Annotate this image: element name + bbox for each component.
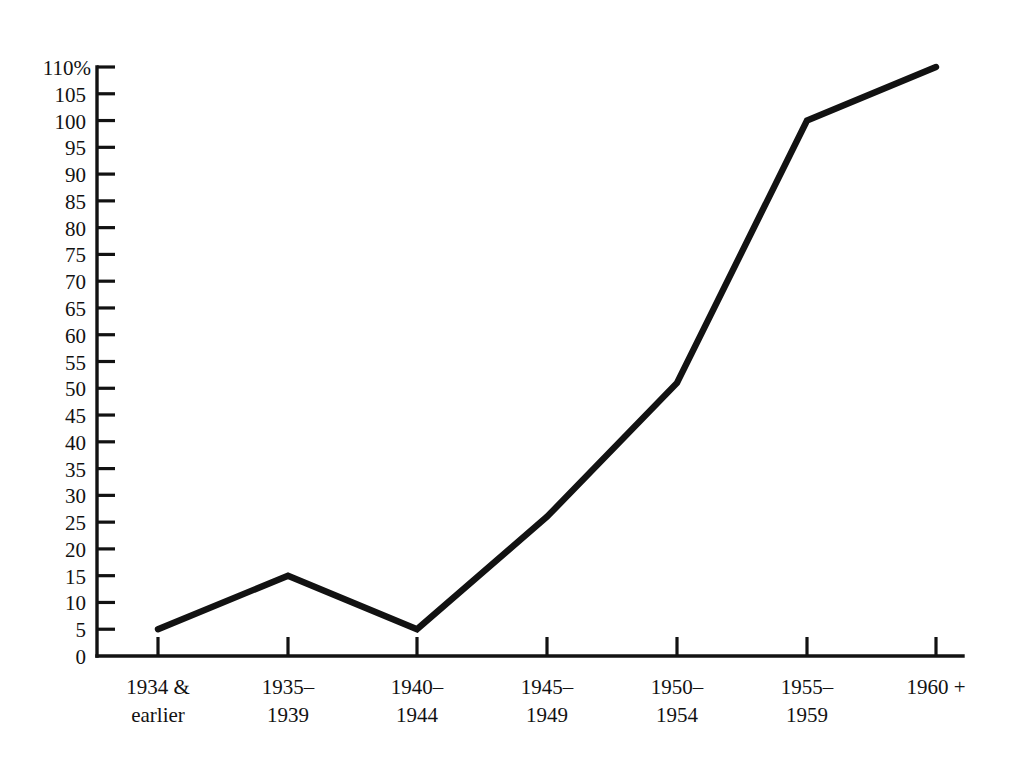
y-tick-label: 70 [65, 270, 86, 294]
x-tick-label: 1950–1954 [651, 675, 704, 727]
y-tick-label: 45 [65, 404, 86, 428]
chart-container: 0510152025303540455055606570758085909510… [0, 0, 1009, 757]
y-tick-label: 35 [65, 458, 86, 482]
y-axis: 0510152025303540455055606570758085909510… [43, 56, 115, 669]
y-tick-label: 60 [65, 324, 86, 348]
y-tick-label: 25 [65, 511, 86, 535]
data-line-series-0 [158, 67, 936, 629]
x-tick-label: 1935–1939 [262, 675, 315, 727]
y-tick-label: 90 [65, 163, 86, 187]
y-tick-label: 105 [55, 83, 87, 107]
x-tick-label: 1955–1959 [781, 675, 834, 727]
y-tick-label: 65 [65, 297, 86, 321]
y-axis-unit-label: 110% [43, 56, 91, 80]
y-tick-label: 15 [65, 565, 86, 589]
y-tick-label: 85 [65, 190, 86, 214]
x-axis [97, 637, 963, 656]
line-chart: 0510152025303540455055606570758085909510… [0, 0, 1009, 757]
y-tick-label: 5 [76, 618, 87, 642]
y-tick-label: 80 [65, 217, 86, 241]
y-tick-label: 50 [65, 377, 86, 401]
y-tick-label: 30 [65, 484, 86, 508]
data-series-line [158, 67, 936, 629]
y-tick-label: 95 [65, 136, 86, 160]
y-tick-label: 55 [65, 351, 86, 375]
x-tick-label: 1940–1944 [391, 675, 444, 727]
y-tick-label: 10 [65, 591, 86, 615]
x-axis-tick-labels: 1934 &earlier1935–19391940–19441945–1949… [126, 675, 965, 727]
x-tick-label: 1960 + [906, 675, 965, 699]
y-tick-label: 75 [65, 243, 86, 267]
y-tick-label: 100 [55, 110, 87, 134]
x-tick-label: 1945–1949 [521, 675, 574, 727]
y-tick-label: 40 [65, 431, 86, 455]
y-tick-label: 0 [76, 645, 87, 669]
y-tick-label: 20 [65, 538, 86, 562]
x-tick-label: 1934 &earlier [126, 675, 190, 727]
